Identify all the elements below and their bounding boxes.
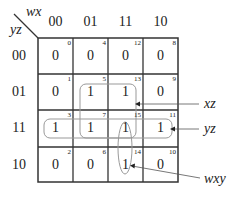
cell-value: 0 — [38, 48, 73, 64]
cell-index: 8 — [166, 39, 176, 47]
cell-value: 1 — [73, 120, 108, 136]
group-label-wxy: wxy — [204, 171, 226, 187]
col-header: 01 — [73, 14, 108, 30]
row-header: 00 — [6, 48, 32, 64]
col-header: 10 — [143, 14, 178, 30]
cell-index: 1 — [61, 75, 71, 83]
cell-index: 7 — [96, 111, 106, 119]
cell-index: 4 — [96, 39, 106, 47]
cell-value: 0 — [73, 157, 108, 173]
cell-index: 5 — [96, 75, 106, 83]
cell-value: 1 — [73, 84, 108, 100]
cell-index: 14 — [131, 148, 141, 156]
cell-value: 1 — [108, 84, 143, 100]
cell-value: 1 — [38, 120, 73, 136]
cell-index: 11 — [166, 111, 176, 119]
cell-value: 0 — [143, 48, 178, 64]
cell-index: 12 — [131, 39, 141, 47]
group-label-yz: yz — [204, 121, 216, 137]
row-header: 01 — [6, 84, 32, 100]
cell-index: 9 — [166, 75, 176, 83]
cell-index: 3 — [61, 111, 71, 119]
cell-value: 0 — [38, 84, 73, 100]
cell-index: 6 — [96, 148, 106, 156]
cell-index: 0 — [61, 39, 71, 47]
row-header: 10 — [6, 157, 32, 173]
cell-value: 1 — [108, 157, 143, 173]
group-label-xz: xz — [204, 96, 216, 112]
cell-value: 0 — [73, 48, 108, 64]
row-header: 11 — [6, 120, 32, 136]
cell-value: 0 — [143, 157, 178, 173]
cell-value: 0 — [143, 84, 178, 100]
cell-value: 1 — [143, 120, 178, 136]
cell-index: 13 — [131, 75, 141, 83]
col-header: 00 — [38, 14, 73, 30]
row-variable-label: yz — [10, 22, 22, 38]
cell-index: 15 — [131, 111, 141, 119]
col-header: 11 — [108, 14, 143, 30]
cell-value: 0 — [108, 48, 143, 64]
cell-index: 2 — [61, 148, 71, 156]
cell-value: 1 — [108, 120, 143, 136]
cell-index: 10 — [166, 148, 176, 156]
cell-value: 0 — [38, 157, 73, 173]
